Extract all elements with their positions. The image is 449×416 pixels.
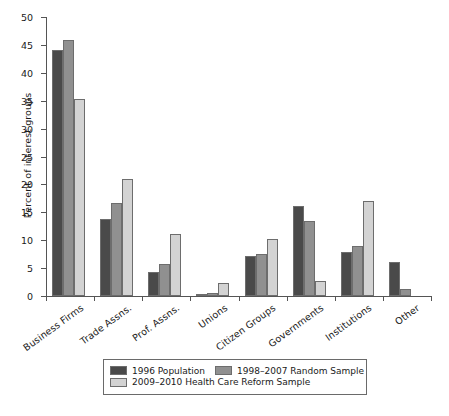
- bar: [170, 234, 181, 296]
- x-tick: [46, 296, 47, 301]
- y-tick: 30: [41, 129, 46, 130]
- y-tick-label: 10: [21, 235, 33, 246]
- y-tick-label: 45: [21, 39, 33, 50]
- bar-group: [245, 17, 278, 296]
- legend-swatch: [215, 366, 232, 375]
- legend-row: 2009–2010 Health Care Reform Sample: [110, 377, 360, 387]
- bar-group: [293, 17, 326, 296]
- x-tick: [142, 296, 143, 301]
- bar-chart-figure: Percent of interest groups 0510152025303…: [0, 0, 449, 416]
- y-tick: 20: [41, 184, 46, 185]
- bar: [111, 203, 122, 296]
- bar: [63, 40, 74, 296]
- bar-group: [196, 17, 229, 296]
- legend-swatch: [110, 378, 127, 387]
- bar: [304, 221, 315, 296]
- bar: [100, 219, 111, 296]
- x-tick: [239, 296, 240, 301]
- x-tick: [287, 296, 288, 301]
- y-tick: 25: [41, 157, 46, 158]
- x-tick: [335, 296, 336, 301]
- y-tick-label: 25: [21, 151, 33, 162]
- legend-label: 2009–2010 Health Care Reform Sample: [132, 377, 310, 387]
- y-axis-line: [46, 17, 47, 296]
- bar: [256, 254, 267, 296]
- y-tick: 50: [41, 17, 46, 18]
- bar: [293, 206, 304, 296]
- bar: [341, 252, 352, 296]
- y-tick: 15: [41, 212, 46, 213]
- bar-group: [389, 17, 422, 296]
- bar: [245, 256, 256, 296]
- y-tick-label: 30: [21, 123, 33, 134]
- y-tick-label: 40: [21, 67, 33, 78]
- bar: [159, 264, 170, 296]
- x-axis-label: Other: [393, 302, 422, 327]
- y-tick-label: 20: [21, 179, 33, 190]
- bar: [352, 246, 363, 296]
- x-tick: [94, 296, 95, 301]
- bar: [315, 281, 326, 296]
- bar: [267, 239, 278, 296]
- y-tick: 10: [41, 240, 46, 241]
- legend-item: 2009–2010 Health Care Reform Sample: [110, 377, 310, 387]
- x-axis-label: Institutions: [323, 302, 373, 343]
- bar-group: [148, 17, 181, 296]
- bar: [122, 179, 133, 296]
- legend-swatch: [110, 366, 127, 375]
- y-tick: 35: [41, 101, 46, 102]
- y-tick-label: 50: [21, 12, 33, 23]
- legend-label: 1996 Population: [132, 366, 205, 376]
- y-tick-label: 15: [21, 207, 33, 218]
- bar: [363, 201, 374, 296]
- legend-item: 1996 Population: [110, 366, 205, 376]
- x-axis-label: Unions: [196, 302, 229, 330]
- x-tick: [383, 296, 384, 301]
- legend-label: 1998–2007 Random Sample: [237, 366, 364, 376]
- bar: [218, 283, 229, 296]
- x-tick: [431, 296, 432, 301]
- x-axis-label: Prof. Assns.: [130, 302, 181, 343]
- chart-legend: 1996 Population1998–2007 Random Sample20…: [103, 359, 367, 395]
- bar-group: [100, 17, 133, 296]
- bar: [196, 294, 207, 296]
- y-tick-label: 5: [27, 263, 33, 274]
- bar-group: [52, 17, 85, 296]
- y-tick: 45: [41, 45, 46, 46]
- bar: [74, 99, 85, 296]
- bar: [52, 50, 63, 296]
- x-axis-label: Trade Assns.: [78, 302, 134, 347]
- bar: [400, 289, 411, 296]
- legend-row: 1996 Population1998–2007 Random Sample: [110, 366, 360, 376]
- bar: [389, 262, 400, 296]
- legend-item: 1998–2007 Random Sample: [215, 366, 364, 376]
- bar: [148, 272, 159, 296]
- bar-group: [341, 17, 374, 296]
- y-tick: 40: [41, 73, 46, 74]
- plot-area: 05101520253035404550 Business FirmsTrade…: [46, 17, 431, 296]
- x-axis-label: Business Firms: [21, 302, 85, 353]
- x-tick: [190, 296, 191, 301]
- bar: [207, 293, 218, 296]
- y-tick: 5: [41, 268, 46, 269]
- y-tick-label: 0: [27, 291, 33, 302]
- y-tick-label: 35: [21, 95, 33, 106]
